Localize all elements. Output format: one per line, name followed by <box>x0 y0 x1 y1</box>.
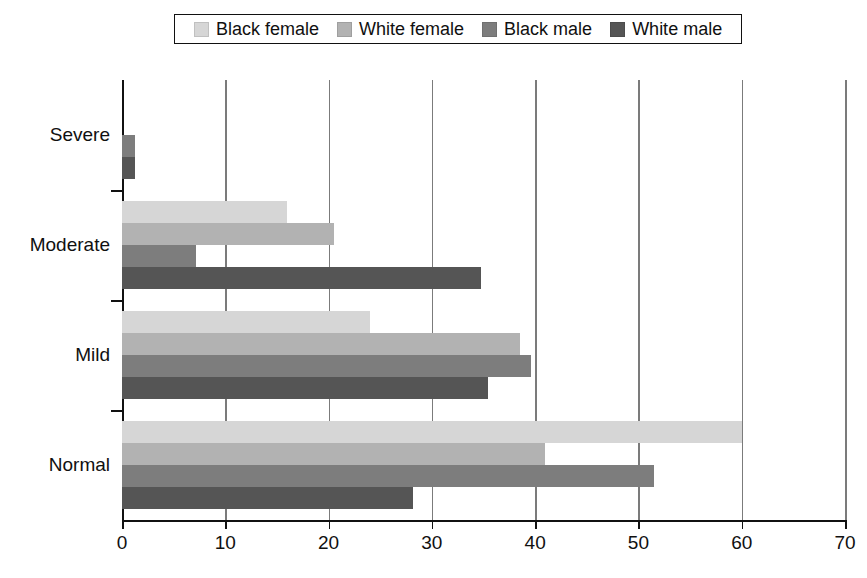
group-separator-2 <box>111 300 123 302</box>
bar-normal-white-male <box>122 487 413 509</box>
bar-severe-black-male <box>122 135 135 157</box>
group-separator-3 <box>111 410 123 412</box>
bar-mild-white-female <box>122 333 520 355</box>
x-tick-mark-50 <box>638 520 640 529</box>
bar-mild-black-male <box>122 355 531 377</box>
x-tick-mark-70 <box>845 520 847 529</box>
x-tick-label-0: 0 <box>117 532 128 554</box>
y-axis-label-moderate: Moderate <box>30 234 110 256</box>
bar-moderate-black-female <box>122 201 287 223</box>
x-tick-label-60: 60 <box>731 532 752 554</box>
bar-severe-white-male <box>122 157 135 179</box>
bar-moderate-black-male <box>122 245 196 267</box>
x-axis-line <box>122 520 847 522</box>
x-tick-label-30: 30 <box>421 532 442 554</box>
bar-chart: SevereModerateMildNormal 010203040506070 <box>0 0 867 578</box>
x-tick-label-70: 70 <box>834 532 855 554</box>
bar-normal-black-female <box>122 421 742 443</box>
y-axis-label-severe: Severe <box>50 124 110 146</box>
x-tick-mark-10 <box>225 520 227 529</box>
bar-normal-black-male <box>122 465 654 487</box>
y-axis-category-labels: SevereModerateMildNormal <box>0 80 110 520</box>
bar-moderate-white-female <box>122 223 334 245</box>
x-tick-mark-30 <box>432 520 434 529</box>
y-axis-label-mild: Mild <box>75 344 110 366</box>
plot-area: 010203040506070 <box>122 80 845 520</box>
x-tick-label-20: 20 <box>318 532 339 554</box>
bar-mild-black-female <box>122 311 370 333</box>
x-tick-label-50: 50 <box>628 532 649 554</box>
x-tick-mark-60 <box>742 520 744 529</box>
gridline-50 <box>638 80 640 520</box>
bar-normal-white-female <box>122 443 545 465</box>
gridline-70 <box>845 80 847 520</box>
x-tick-mark-20 <box>329 520 331 529</box>
x-tick-mark-40 <box>535 520 537 529</box>
bar-moderate-white-male <box>122 267 481 289</box>
y-axis-label-normal: Normal <box>49 454 110 476</box>
x-tick-label-10: 10 <box>215 532 236 554</box>
bar-mild-white-male <box>122 377 488 399</box>
group-separator-1 <box>111 190 123 192</box>
x-tick-mark-0 <box>122 520 124 529</box>
gridline-60 <box>742 80 744 520</box>
x-tick-label-40: 40 <box>525 532 546 554</box>
